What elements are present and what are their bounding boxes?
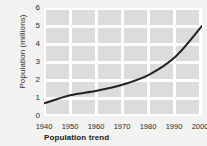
- y-tick-2: 2: [26, 76, 40, 84]
- x-tick-1940: 1940: [31, 122, 57, 132]
- y-tick-3: 3: [26, 58, 40, 66]
- x-tick-1950: 1950: [57, 122, 83, 132]
- chart-title: Population trend: [44, 133, 109, 142]
- y-tick-1: 1: [26, 94, 40, 102]
- x-tick-1970: 1970: [109, 122, 135, 132]
- y-tick-4: 4: [26, 40, 40, 48]
- series-path-population: [44, 26, 202, 103]
- population-line-series: [44, 8, 202, 116]
- y-tick-5: 5: [26, 22, 40, 30]
- plot-area: [44, 8, 202, 116]
- x-tick-1990: 1990: [161, 122, 187, 132]
- x-tick-1960: 1960: [83, 122, 109, 132]
- x-tick-1980: 1980: [135, 122, 161, 132]
- chart-figure: Population (millions) 0 1 2 3 4 5 6 1940…: [0, 0, 207, 146]
- x-tick-2000: 2000: [187, 122, 207, 132]
- y-tick-0: 0: [26, 112, 40, 120]
- y-tick-6: 6: [26, 4, 40, 12]
- y-axis-tick-labels: 0 1 2 3 4 5 6: [26, 8, 40, 116]
